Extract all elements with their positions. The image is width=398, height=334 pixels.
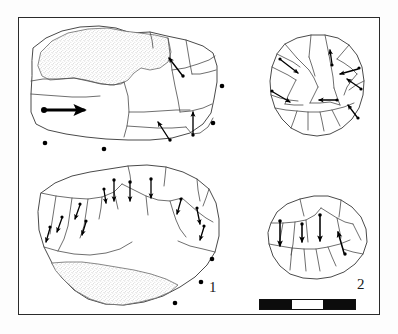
scale-bar-segment-1 [260,300,292,309]
scale-bar-segment-3 [323,300,355,309]
figure-plate: 1 2 [0,0,398,334]
artifact-1-number-label: 1 [209,279,217,296]
scale-bar-segment-2 [292,300,324,309]
lithic-line-drawings [0,0,398,334]
scale-bar [259,299,356,310]
artifact-2-dorsal-outline [268,196,367,279]
artifact-2-number-label: 2 [357,276,365,293]
